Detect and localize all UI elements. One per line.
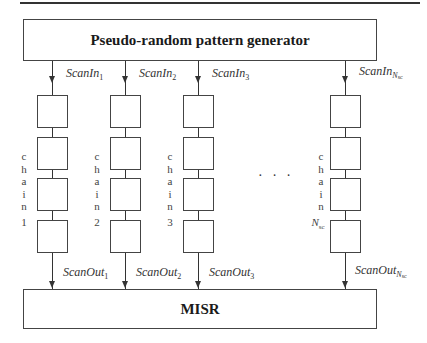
scanout-nsc-label: ScanOutNsc	[355, 263, 407, 279]
link-line	[125, 170, 126, 178]
chain-1-label: chain 1	[18, 150, 30, 228]
scan-cell	[330, 220, 361, 253]
scanin-1-label: ScanIn1	[66, 66, 103, 82]
scan-cell	[37, 95, 68, 128]
arrow-down-icon	[195, 281, 201, 288]
arrow-down-icon	[342, 281, 348, 288]
scan-cell	[183, 95, 214, 128]
link-line	[125, 128, 126, 137]
top-rule	[20, 2, 420, 4]
scan-cell	[37, 220, 68, 253]
chain-2-label: chain 2	[91, 150, 103, 228]
arrow-down-icon	[342, 76, 348, 83]
arrow-down-icon	[122, 281, 128, 288]
generator-label: Pseudo-random pattern generator	[90, 32, 309, 49]
arrow-down-icon	[195, 76, 201, 83]
scan-cell	[330, 178, 361, 211]
scan-cell	[183, 220, 214, 253]
link-line	[345, 170, 346, 178]
scan-cell	[110, 137, 141, 170]
link-line	[52, 170, 53, 178]
scan-cell	[110, 220, 141, 253]
misr-label: MISR	[180, 301, 219, 318]
scan-cell	[183, 137, 214, 170]
arrow-down-icon	[49, 281, 55, 288]
link-line	[198, 128, 199, 137]
scanin-nsc-label: ScanInNsc	[359, 64, 403, 80]
scan-cell	[183, 178, 214, 211]
link-line	[198, 170, 199, 178]
scan-cell	[37, 178, 68, 211]
scan-cell	[37, 137, 68, 170]
scan-cell	[330, 137, 361, 170]
arrow-down-icon	[49, 76, 55, 83]
link-line	[52, 128, 53, 137]
link-line	[198, 211, 199, 220]
misr-box: MISR	[23, 289, 377, 329]
link-line	[52, 211, 53, 220]
pattern-generator-box: Pseudo-random pattern generator	[23, 19, 377, 61]
link-line	[345, 128, 346, 137]
scan-cell	[110, 95, 141, 128]
scanin-2-label: ScanIn2	[139, 66, 176, 82]
chain-3-label: chain 3	[164, 150, 176, 228]
scanout-2-label: ScanOut2	[136, 265, 181, 281]
scan-cell	[330, 95, 361, 128]
scan-cell	[110, 178, 141, 211]
chain-nsc-label: chain Nsc	[311, 150, 331, 233]
arrow-down-icon	[122, 76, 128, 83]
link-line	[345, 211, 346, 220]
link-line	[125, 211, 126, 220]
scanout-3-label: ScanOut3	[209, 265, 254, 281]
ellipsis: · · ·	[258, 168, 294, 184]
scanout-1-label: ScanOut1	[63, 265, 108, 281]
scanin-3-label: ScanIn3	[212, 66, 249, 82]
